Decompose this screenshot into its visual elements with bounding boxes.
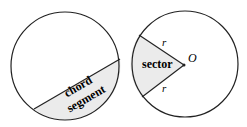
left-circle-figure: chord segment	[11, 12, 120, 120]
circle-diagram: chord segment O r r sector	[0, 0, 247, 127]
radius-label-bottom: r	[162, 82, 167, 94]
center-label: O	[188, 51, 197, 65]
right-circle-figure: O r r sector	[130, 11, 238, 117]
center-point	[183, 64, 186, 67]
sector-label: sector	[142, 57, 173, 71]
radius-label-top: r	[162, 36, 167, 48]
